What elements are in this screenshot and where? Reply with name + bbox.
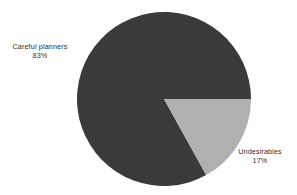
pie-label-careful-planners-name: Careful planners	[6, 42, 74, 51]
pie-chart-figure: Careful planners 83% Undesirables 17%	[0, 0, 297, 195]
pie-label-careful-planners: Careful planners 83%	[6, 42, 74, 60]
pie-label-careful-planners-value: 83%	[6, 51, 74, 60]
pie-label-undesirables: Undesirables 17%	[228, 147, 292, 165]
pie-label-undesirables-name: Undesirables	[228, 147, 292, 156]
pie-label-undesirables-value: 17%	[228, 156, 292, 165]
pie-chart-graphic	[0, 0, 297, 195]
